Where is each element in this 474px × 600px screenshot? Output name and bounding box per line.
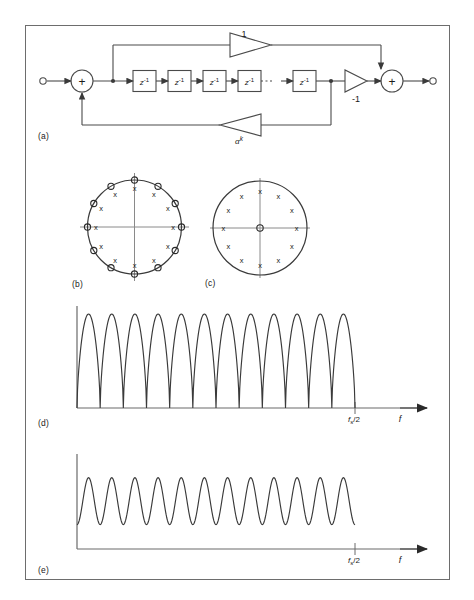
pole-marker: x — [166, 204, 170, 213]
pole-marker: x — [258, 187, 262, 196]
delay-block-5-label: z-1 — [299, 77, 310, 87]
pole-marker: x — [295, 224, 299, 233]
feedforward-gain-triangle — [230, 33, 271, 57]
feedback-gain-triangle — [220, 114, 261, 136]
pole-marker: x — [152, 190, 156, 199]
panel-e-response: fs/2 f — [55, 448, 450, 573]
figure-root: + + z-1 z-1 z-1 z-1 z-1 1 -1 αk (a) xxxx… — [0, 0, 474, 600]
pole-marker: x — [113, 190, 117, 199]
delay-block-2-label: z-1 — [174, 77, 185, 87]
delay-block-3-label: z-1 — [209, 77, 220, 87]
panel-e-curve — [77, 478, 355, 525]
pole-marker: x — [94, 223, 98, 232]
summer-2-symbol: + — [388, 75, 395, 89]
panel-e-fs2-label: fs/2 — [348, 556, 360, 566]
pole-marker: x — [276, 256, 280, 265]
summer-1-symbol: + — [78, 75, 85, 89]
pole-marker: x — [226, 206, 230, 215]
pole-marker: x — [276, 192, 280, 201]
panel-c-pole-zero: xxxxxxxxxxxx — [205, 175, 315, 281]
panel-a-block-diagram: + + z-1 z-1 z-1 z-1 z-1 1 -1 αk — [25, 25, 450, 150]
feedback-gain-label: αk — [235, 135, 244, 146]
input-terminal — [40, 78, 46, 84]
output-terminal — [430, 78, 436, 84]
panel-b-label: (b) — [72, 280, 83, 289]
panel-e-x-label: f — [399, 555, 403, 565]
panel-c-label: (c) — [205, 279, 216, 288]
pole-marker: x — [258, 261, 262, 270]
output-gain-label: -1 — [352, 94, 360, 104]
pole-marker: x — [221, 224, 225, 233]
pole-marker: x — [240, 192, 244, 201]
pole-marker: x — [226, 242, 230, 251]
pole-marker: x — [133, 261, 137, 270]
pole-marker: x — [290, 206, 294, 215]
output-gain-triangle — [345, 70, 367, 92]
panel-d-curve — [77, 314, 355, 408]
delay-block-4-label: z-1 — [244, 77, 255, 87]
tap-dot-forward — [111, 79, 115, 83]
feedforward-gain-label: 1 — [241, 29, 246, 39]
pole-marker: x — [171, 223, 175, 232]
panel-a-label: (a) — [38, 132, 49, 141]
pole-marker: x — [166, 242, 170, 251]
panel-e-label: (e) — [38, 566, 49, 575]
delay-block-1-label: z-1 — [139, 77, 150, 87]
panel-d-fs2-label: fs/2 — [348, 415, 360, 425]
pole-marker: x — [113, 256, 117, 265]
panel-d-x-label: f — [399, 414, 403, 424]
panel-d-response: fs/2 f — [55, 300, 450, 425]
pole-marker: x — [99, 242, 103, 251]
pole-marker: x — [240, 256, 244, 265]
tap-dot-feedback — [329, 79, 333, 83]
panel-d-label: (d) — [38, 419, 49, 428]
pole-marker: x — [290, 242, 294, 251]
pole-marker: x — [133, 184, 137, 193]
panel-b-pole-zero: xxxxxxxxxxxx — [72, 172, 197, 282]
pole-marker: x — [152, 256, 156, 265]
pole-marker: x — [99, 204, 103, 213]
